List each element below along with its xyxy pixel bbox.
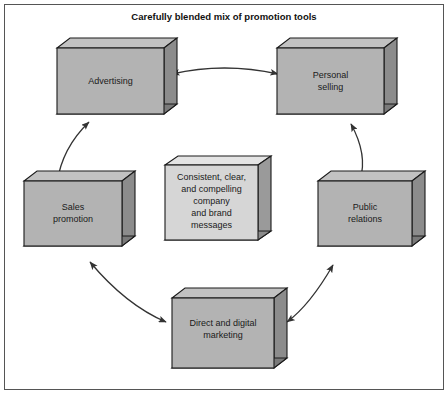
center-message-line2: and compelling xyxy=(181,184,242,194)
center-message-line3: company xyxy=(193,196,230,206)
sales-promotion-box-label-line1: Sales xyxy=(62,202,85,212)
direct-and-digital-marketing-box[interactable]: Direct and digital marketing xyxy=(172,288,287,368)
advertising-box[interactable]: Advertising xyxy=(57,38,177,114)
sales-promotion-box-label-line2: promotion xyxy=(53,214,93,224)
personal-selling-box-label-line2: selling xyxy=(318,82,344,92)
page-title: Carefully blended mix of promotion tools xyxy=(131,11,316,22)
promotion-mix-diagram: Carefully blended mix of promotion tools… xyxy=(0,0,448,394)
public-relations-box[interactable]: Public relations xyxy=(318,171,425,246)
center-message-line5: messages xyxy=(191,220,233,230)
personal-selling-box[interactable]: Personal selling xyxy=(277,38,397,114)
direct-marketing-box-label-line1: Direct and digital xyxy=(189,318,256,328)
center-message-line1: Consistent, clear, xyxy=(177,172,246,182)
personal-selling-box-label-line1: Personal xyxy=(313,70,349,80)
direct-marketing-box-label-line2: marketing xyxy=(203,330,243,340)
public-relations-box-label-line2: relations xyxy=(348,214,383,224)
diagram-canvas: Carefully blended mix of promotion tools… xyxy=(0,0,448,394)
advertising-box-label: Advertising xyxy=(88,76,133,86)
center-message-line4: and brand xyxy=(191,208,232,218)
sales-promotion-box[interactable]: Sales promotion xyxy=(24,171,135,246)
center-message-box[interactable]: Consistent, clear, and compelling compan… xyxy=(165,156,271,240)
public-relations-box-label-line1: Public xyxy=(353,202,378,212)
